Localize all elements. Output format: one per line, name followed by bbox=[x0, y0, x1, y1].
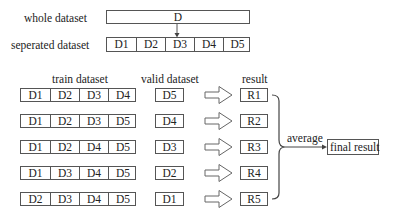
valid-set-3: D3 bbox=[155, 140, 184, 154]
train-set-3: D1 D2 D4 D5 bbox=[20, 140, 136, 154]
final-result-box: final result bbox=[327, 139, 379, 155]
train-part: D4 bbox=[79, 193, 108, 205]
train-part: D2 bbox=[21, 193, 50, 205]
result-4: R4 bbox=[240, 166, 268, 180]
train-set-4: D1 D3 D4 D5 bbox=[20, 166, 136, 180]
train-part: D4 bbox=[79, 141, 108, 153]
separated-dataset-box: D1 D2 D3 D4 D5 bbox=[106, 37, 250, 52]
result-header: result bbox=[242, 72, 268, 86]
whole-dataset-box: D bbox=[106, 10, 250, 24]
train-part: D1 bbox=[21, 89, 50, 101]
train-part: D5 bbox=[108, 193, 137, 205]
train-part: D4 bbox=[108, 89, 137, 101]
valid-set-1: D5 bbox=[155, 88, 184, 102]
train-part: D3 bbox=[79, 89, 108, 101]
train-part: D5 bbox=[108, 167, 137, 179]
part-d5: D5 bbox=[223, 38, 251, 51]
valid-set-5: D1 bbox=[155, 192, 184, 206]
part-d4: D4 bbox=[194, 38, 223, 51]
train-part: D1 bbox=[21, 115, 50, 127]
fold-arrows bbox=[205, 87, 232, 208]
connectors-layer bbox=[0, 0, 396, 212]
train-part: D1 bbox=[21, 141, 50, 153]
whole-dataset-label: whole dataset bbox=[24, 11, 87, 25]
valid-set-2: D4 bbox=[155, 114, 184, 128]
curly-brace-icon bbox=[272, 95, 285, 199]
separated-dataset-label: seperated dataset bbox=[11, 38, 89, 52]
train-part: D3 bbox=[79, 115, 108, 127]
fold-arrow-icon-2 bbox=[205, 113, 232, 130]
part-d1: D1 bbox=[107, 38, 136, 51]
train-set-1: D1 D2 D3 D4 bbox=[20, 88, 136, 102]
fold-arrow-icon-4 bbox=[205, 165, 232, 182]
part-d2: D2 bbox=[136, 38, 165, 51]
train-part: D5 bbox=[108, 115, 137, 127]
train-dataset-header: train dataset bbox=[52, 72, 108, 86]
train-set-5: D2 D3 D4 D5 bbox=[20, 192, 136, 206]
average-label: average bbox=[287, 131, 323, 145]
train-part: D2 bbox=[50, 115, 79, 127]
fold-arrow-icon-5 bbox=[205, 191, 232, 208]
result-2: R2 bbox=[240, 114, 268, 128]
train-part: D4 bbox=[79, 167, 108, 179]
result-1: R1 bbox=[240, 88, 268, 102]
fold-arrow-icon-3 bbox=[205, 139, 232, 156]
result-3: R3 bbox=[240, 140, 268, 154]
train-part: D2 bbox=[50, 89, 79, 101]
valid-dataset-header: valid dataset bbox=[141, 72, 199, 86]
result-5: R5 bbox=[240, 192, 268, 206]
fold-arrow-icon-1 bbox=[205, 87, 232, 104]
train-part: D5 bbox=[108, 141, 137, 153]
train-part: D2 bbox=[50, 141, 79, 153]
train-part: D1 bbox=[21, 167, 50, 179]
valid-set-4: D2 bbox=[155, 166, 184, 180]
train-part: D3 bbox=[50, 167, 79, 179]
train-part: D3 bbox=[50, 193, 79, 205]
train-set-2: D1 D2 D3 D5 bbox=[20, 114, 136, 128]
part-d3: D3 bbox=[165, 38, 194, 51]
